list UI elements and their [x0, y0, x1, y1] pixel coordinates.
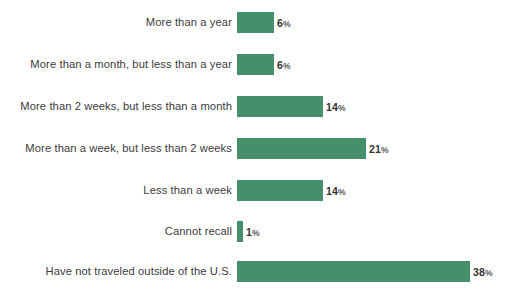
bar-value-label: 14% [326, 96, 346, 117]
category-label: More than a week, but less than 2 weeks [25, 138, 232, 159]
chart-row: Have not traveled outside of the U.S. 38… [0, 261, 505, 282]
category-label: More than 2 weeks, but less than a month [20, 96, 232, 117]
chart-row: Cannot recall 1% [0, 221, 505, 242]
bar-value-number: 21 [369, 143, 381, 155]
bar-value-label: 6% [277, 54, 291, 75]
bar [237, 12, 274, 33]
chart-row: Less than a week 14% [0, 180, 505, 201]
chart-row: More than a week, but less than 2 weeks … [0, 138, 505, 159]
bar-value-number: 14 [326, 101, 338, 113]
percent-sign: % [338, 103, 346, 113]
bar-value-label: 14% [326, 180, 346, 201]
chart-row: More than a year 6% [0, 12, 505, 33]
bar-value-number: 38 [473, 266, 485, 278]
percent-sign: % [381, 145, 389, 155]
percent-sign: % [283, 19, 291, 29]
bar [237, 138, 366, 159]
horizontal-bar-chart: More than a year 6% More than a month, b… [0, 0, 505, 301]
bar [237, 96, 323, 117]
chart-row: More than 2 weeks, but less than a month… [0, 96, 505, 117]
bar [237, 180, 323, 201]
bar-value-label: 21% [369, 138, 389, 159]
chart-plot-area: More than a year 6% More than a month, b… [0, 0, 505, 301]
bar-value-label: 1% [246, 221, 260, 242]
category-label: Cannot recall [165, 221, 232, 242]
bar-value-label: 38% [473, 261, 493, 282]
bar [237, 221, 243, 242]
category-label: More than a month, but less than a year [30, 54, 232, 75]
category-label: Have not traveled outside of the U.S. [45, 261, 232, 282]
percent-sign: % [338, 187, 346, 197]
bar [237, 54, 274, 75]
bar [237, 261, 470, 282]
category-label: Less than a week [143, 180, 232, 201]
bar-value-label: 6% [277, 12, 291, 33]
percent-sign: % [485, 268, 493, 278]
category-label: More than a year [146, 12, 232, 33]
percent-sign: % [252, 228, 260, 238]
percent-sign: % [283, 61, 291, 71]
bar-value-number: 14 [326, 185, 338, 197]
chart-row: More than a month, but less than a year … [0, 54, 505, 75]
